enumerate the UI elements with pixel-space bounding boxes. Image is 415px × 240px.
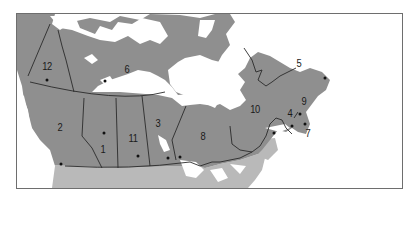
region-label-3: 3 bbox=[156, 118, 161, 129]
region-label-10: 10 bbox=[250, 104, 260, 115]
capital-dot-10 bbox=[273, 132, 276, 135]
capital-dot-4 bbox=[291, 125, 294, 128]
region-label-12: 12 bbox=[42, 61, 52, 72]
capital-dot-11 bbox=[137, 155, 140, 158]
capital-dot-3 bbox=[167, 157, 170, 160]
region-label-8: 8 bbox=[201, 131, 206, 142]
capital-dot-6 bbox=[104, 80, 107, 83]
region-label-5: 5 bbox=[297, 58, 302, 69]
capital-dot-1 bbox=[103, 132, 106, 135]
region-label-6: 6 bbox=[125, 64, 130, 75]
region-label-9: 9 bbox=[302, 96, 307, 107]
capital-dot-5 bbox=[324, 77, 327, 80]
region-label-4: 4 bbox=[288, 108, 293, 119]
region-label-7: 7 bbox=[306, 128, 311, 139]
region-label-2: 2 bbox=[58, 122, 63, 133]
capital-dot-9 bbox=[299, 113, 302, 116]
capital-dot-2 bbox=[60, 163, 63, 166]
region-label-1: 1 bbox=[101, 144, 106, 155]
region-label-11: 11 bbox=[129, 133, 138, 144]
capital-dot-12 bbox=[46, 79, 49, 82]
capital-dot-8 bbox=[179, 156, 182, 159]
capital-dot-7 bbox=[304, 123, 307, 126]
